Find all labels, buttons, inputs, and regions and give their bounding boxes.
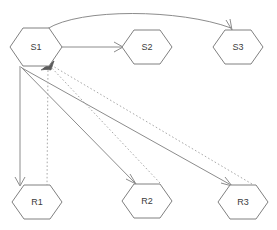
node-s3[interactable]: S3 [213,30,263,64]
node-s2[interactable]: S2 [122,30,172,64]
node-link-diagram: S1 S2 S3 R1 R2 [0,0,277,230]
edge-s1-to-r1[interactable] [15,66,25,186]
edge-r1-to-s1-path [47,66,48,186]
edge-r1-to-s1[interactable] [47,66,48,186]
node-r3-label: R3 [237,197,249,207]
node-s3-label: S3 [232,42,243,52]
edge-s1-to-s3[interactable] [47,14,232,31]
edge-s1-to-r3[interactable] [22,68,232,186]
edge-s1-to-s2[interactable] [62,42,123,52]
node-s1[interactable]: S1 [10,28,62,66]
node-r2-label: R2 [141,196,153,206]
node-layer: S1 S2 S3 R1 R2 [10,28,268,219]
edge-r3-to-s1[interactable] [51,65,252,184]
edge-s1-to-s3-path [47,14,231,30]
diagram-canvas: S1 S2 S3 R1 R2 [0,0,277,230]
node-r2[interactable]: R2 [122,184,172,218]
edge-r2-to-s1-path [50,66,160,183]
edge-r3-to-s1-path [51,65,252,184]
node-r1-label: R1 [31,197,43,207]
node-r3[interactable]: R3 [218,185,268,219]
edge-r2-to-s1[interactable] [50,66,160,183]
node-s2-label: S2 [141,42,152,52]
node-s1-label: S1 [30,42,41,52]
edge-s1-to-r3-path [22,68,231,185]
edge-s1-to-r2[interactable] [21,67,136,184]
edge-s1-to-s3-arrowhead [226,19,232,30]
node-r1[interactable]: R1 [12,185,62,219]
edge-s1-to-r2-path [21,67,135,183]
